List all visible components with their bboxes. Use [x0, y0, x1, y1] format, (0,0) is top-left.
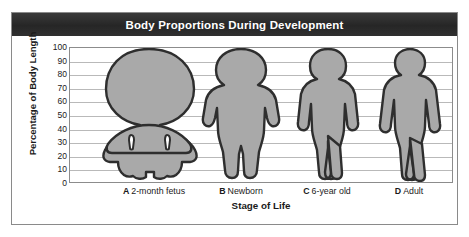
category-key: C	[303, 186, 309, 196]
y-axis-tick-labels: 0102030405060708090100	[42, 47, 67, 183]
category-name: 6-year old	[312, 186, 351, 196]
figure-six-year-old	[288, 47, 368, 182]
x-axis-category-label: A2-month fetus	[123, 186, 185, 196]
silhouette-figures	[70, 48, 452, 182]
y-axis-tick-label: 10	[58, 164, 67, 174]
y-axis-tick-label: 80	[58, 69, 67, 79]
y-axis-tick-label: 90	[58, 56, 67, 66]
x-axis-category-label: BNewborn	[219, 186, 263, 196]
y-axis-tick-label: 30	[58, 137, 67, 147]
x-axis-title: Stage of Life	[69, 200, 453, 211]
category-key: A	[123, 186, 129, 196]
figure-adult	[370, 47, 450, 182]
plot-area	[69, 47, 453, 183]
y-axis-tick-label: 0	[62, 178, 67, 188]
figure-card: Body Proportions During Development Perc…	[11, 12, 458, 225]
y-axis-tick-label: 40	[58, 124, 67, 134]
x-axis-category-labels: A2-month fetusBNewbornC6-year oldDAdult	[69, 186, 453, 200]
category-key: D	[395, 186, 401, 196]
y-axis-tick-label: 70	[58, 83, 67, 93]
category-name: Newborn	[228, 186, 263, 196]
category-name: 2-month fetus	[131, 186, 185, 196]
chart-title-bar: Body Proportions During Development	[12, 13, 457, 36]
x-axis-category-label: DAdult	[395, 186, 423, 196]
y-axis-title: Percentage of Body Length	[27, 29, 38, 159]
page-title: Body Proportions During Development	[125, 19, 343, 31]
figure-newborn	[198, 47, 284, 182]
chart-plot-region: Percentage of Body Length 01020304050607…	[12, 36, 457, 225]
x-axis-category-label: C6-year old	[303, 186, 350, 196]
category-key: B	[219, 186, 225, 196]
y-axis-tick-label: 20	[58, 151, 67, 161]
category-name: Adult	[403, 186, 423, 196]
y-axis-tick-label: 100	[53, 42, 67, 52]
figure-fetus	[90, 47, 208, 182]
y-axis-tick-label: 50	[58, 110, 67, 120]
y-axis-tick-label: 60	[58, 96, 67, 106]
